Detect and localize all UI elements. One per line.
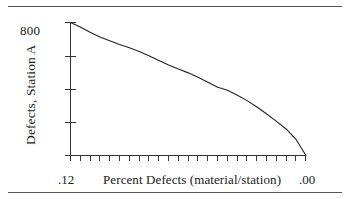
data-series-line bbox=[71, 23, 307, 156]
figure-page: 800 Defects, Station A .12 Percent Defec… bbox=[0, 0, 350, 199]
line-chart-plot bbox=[0, 10, 350, 190]
x-axis-title: Percent Defects (material/station) bbox=[103, 173, 281, 186]
x-axis-right-tick-label: .00 bbox=[299, 173, 315, 186]
bottom-horizontal-rule bbox=[8, 192, 342, 193]
x-axis-left-tick-label: .12 bbox=[58, 173, 74, 186]
x-axis-ticks bbox=[71, 156, 306, 162]
top-horizontal-rule bbox=[8, 6, 342, 7]
chart-figure: 800 Defects, Station A .12 Percent Defec… bbox=[0, 10, 350, 190]
y-axis-title: Defects, Station A bbox=[24, 30, 38, 160]
